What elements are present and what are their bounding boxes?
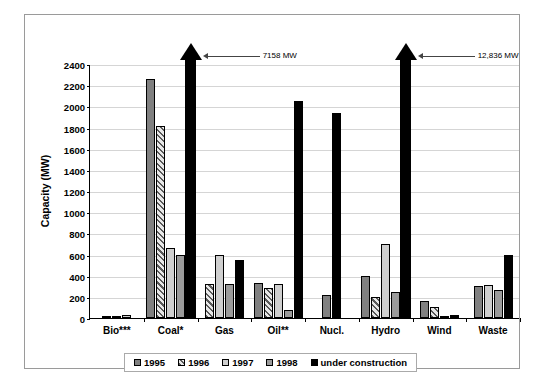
legend-label: 1996 [188, 357, 209, 368]
y-tick-label: 1800 [64, 123, 85, 134]
bar [440, 316, 449, 318]
bar [156, 126, 165, 318]
y-tick-label: 200 [69, 292, 85, 303]
bar-group-bars [90, 65, 144, 318]
bar [284, 310, 293, 318]
bar-group-bars [413, 65, 467, 318]
legend-swatch-icon [266, 359, 273, 366]
y-tick-label: 2000 [64, 102, 85, 113]
y-tick-label: 400 [69, 271, 85, 282]
x-tick-label: Coal* [158, 325, 184, 336]
y-tick-label: 0 [80, 314, 85, 325]
plot-area: 2400220020001800160014001200100080060040… [89, 65, 519, 319]
bar [294, 101, 303, 318]
bar [504, 255, 513, 319]
annotation-label: 12,836 MW [478, 51, 519, 60]
bar-group: Gas [198, 65, 252, 318]
bar [391, 292, 400, 318]
bar [371, 297, 380, 318]
bar [322, 295, 331, 318]
x-tick-label: Nucl. [320, 325, 344, 336]
bar [430, 307, 439, 318]
x-tick-label: Gas [215, 325, 234, 336]
x-tick-mark [466, 318, 467, 322]
bar [494, 290, 503, 318]
x-tick-label: Waste [479, 325, 508, 336]
legend-swatch-icon [222, 359, 229, 366]
bar [215, 255, 224, 319]
y-tick-mark [87, 319, 90, 320]
x-tick-mark [198, 318, 199, 322]
legend-label: 1998 [276, 357, 297, 368]
legend-swatch-icon [311, 359, 318, 366]
bar-group-bars [251, 65, 305, 318]
x-tick-label: Wind [427, 325, 451, 336]
bar-group: Bio*** [90, 65, 144, 318]
legend-item[interactable]: 1997 [222, 357, 253, 368]
x-tick-mark [413, 318, 414, 322]
legend-label: under construction [321, 357, 408, 368]
off-scale-arrow-head [395, 43, 417, 60]
annotation-label: 7158 MW [263, 51, 297, 60]
chart-frame: Capacity (MW) 24002200200018001600140012… [24, 14, 520, 369]
bar [122, 315, 131, 318]
legend-item[interactable]: 1998 [266, 357, 297, 368]
bar-group: Nucl. [305, 65, 359, 318]
x-tick-mark [359, 318, 360, 322]
bar [484, 285, 493, 318]
legend-swatch-icon [178, 359, 185, 366]
bar [112, 316, 121, 318]
legend-label: 1997 [232, 357, 253, 368]
y-tick-label: 600 [69, 250, 85, 261]
legend-item[interactable]: 1996 [178, 357, 209, 368]
bar [420, 301, 429, 318]
bar [254, 283, 263, 318]
bar-group-bars [305, 65, 359, 318]
x-tick-label: Bio*** [103, 325, 131, 336]
y-tick-label: 1400 [64, 165, 85, 176]
off-scale-arrow-shaft [400, 58, 411, 319]
x-tick-mark [520, 318, 521, 322]
legend-item[interactable]: 1995 [134, 357, 165, 368]
bar [450, 315, 459, 318]
bar-group: Oil** [251, 65, 305, 318]
bar-group-bars [198, 65, 252, 318]
bar [146, 79, 155, 318]
chart-legend: 1995199619971998under construction [124, 353, 417, 372]
bar [264, 288, 273, 318]
bar [225, 284, 234, 318]
x-tick-mark [305, 318, 306, 322]
bar [235, 260, 244, 318]
bar [381, 244, 390, 318]
annotation-leader-line [423, 56, 475, 57]
bar [205, 284, 214, 318]
x-tick-mark [144, 318, 145, 322]
x-tick-label: Oil** [268, 325, 289, 336]
bar [274, 284, 283, 318]
bar [361, 276, 370, 318]
y-tick-label: 2200 [64, 81, 85, 92]
bar [332, 113, 341, 318]
off-scale-arrow-shaft [185, 58, 196, 319]
y-tick-label: 800 [69, 229, 85, 240]
y-tick-label: 1000 [64, 208, 85, 219]
bar-group: Waste [466, 65, 520, 318]
bar-group: Wind [413, 65, 467, 318]
off-scale-arrow-head [180, 43, 202, 60]
y-tick-label: 1600 [64, 144, 85, 155]
legend-item[interactable]: under construction [311, 357, 408, 368]
y-axis-title: Capacity (MW) [39, 155, 51, 227]
bar [474, 286, 483, 318]
y-tick-label: 1200 [64, 187, 85, 198]
legend-label: 1995 [144, 357, 165, 368]
bar [176, 255, 185, 319]
x-tick-label: Hydro [371, 325, 400, 336]
bar [166, 248, 175, 318]
annotation-leader-line [208, 56, 260, 57]
x-tick-mark [251, 318, 252, 322]
bar-group-bars [466, 65, 520, 318]
bar [102, 316, 111, 318]
legend-swatch-icon [134, 359, 141, 366]
y-tick-label: 2400 [64, 60, 85, 71]
